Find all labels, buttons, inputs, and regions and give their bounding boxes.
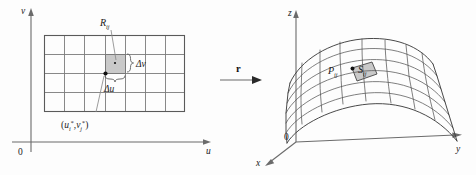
delta-v-brace (127, 54, 134, 72)
y-axis-label: y (455, 144, 461, 154)
left-panel-group: v u 0 (12, 6, 211, 157)
region-rij-label: Rij (99, 17, 110, 30)
right-panel-group: z y x 0 (255, 8, 462, 168)
y-axis (296, 132, 462, 142)
rij-center-dot (114, 62, 116, 64)
u-axis (12, 139, 211, 145)
sample-point-label: (ui*,vj*) (61, 119, 88, 132)
sample-point-dot (103, 71, 107, 75)
mapping-arrow-label: r (236, 63, 241, 74)
point-pij-dot (351, 67, 355, 71)
mapping-arrow-group: r (220, 63, 262, 84)
point-pij-label: Pij (327, 65, 338, 78)
v-axis (28, 8, 34, 152)
figure-canvas: v u 0 (0, 0, 476, 175)
delta-u-label: Δu (103, 84, 115, 94)
x-axis-label: x (255, 158, 261, 168)
surface-mapping-figure: v u 0 (0, 0, 476, 175)
left-origin-label: 0 (18, 147, 23, 157)
sample-point-leader-line (96, 76, 104, 112)
delta-u-brace (105, 76, 125, 83)
uv-grid (45, 36, 185, 112)
x-axis (265, 142, 296, 166)
u-axis-label: u (206, 146, 211, 156)
z-axis-label: z (287, 8, 292, 18)
surface-mesh (286, 38, 457, 143)
delta-v-label: Δv (135, 59, 147, 69)
v-axis-label: v (21, 6, 26, 16)
